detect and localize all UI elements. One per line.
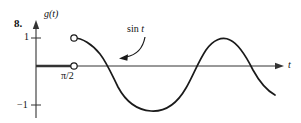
curve-annotation-variable: t xyxy=(141,23,144,34)
g-axis-arrowhead xyxy=(33,20,39,29)
problem-number: 8. xyxy=(14,18,22,29)
sine-curve xyxy=(74,38,275,111)
curve-annotation-function: sin xyxy=(127,23,139,34)
annotation-arrow xyxy=(119,37,145,61)
annotation-arrowhead xyxy=(119,54,128,61)
y-tick-label-negative-one: −1 xyxy=(17,100,28,110)
open-circle-marker-at-zero xyxy=(71,63,77,69)
x-tick-label-pi-over-two: π/2 xyxy=(61,71,74,81)
curve-annotation-label: sin t xyxy=(127,24,144,34)
annotation-arrow-curve xyxy=(126,37,145,57)
open-circle-marker-at-one xyxy=(71,35,77,41)
g-axis xyxy=(33,20,39,118)
y-tick-label-one: 1 xyxy=(24,32,29,42)
y-axis-label: g(t) xyxy=(44,9,58,19)
x-axis-label: t xyxy=(288,60,291,70)
t-axis-arrowhead xyxy=(275,63,284,69)
